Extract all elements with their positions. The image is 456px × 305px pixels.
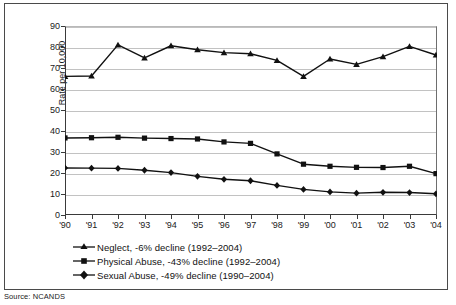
x-tick-label: '00 — [324, 220, 336, 230]
data-point — [407, 164, 412, 169]
y-tick-label: 0 — [55, 211, 60, 220]
x-tick-mark — [145, 215, 146, 219]
figure-border: Rate per 10,000 0102030405060708090 '90'… — [4, 3, 448, 290]
data-point — [327, 56, 334, 62]
x-tick-mark — [65, 215, 66, 219]
x-tick-label: '90 — [59, 220, 71, 230]
x-tick-mark — [436, 215, 437, 219]
series-square — [65, 135, 437, 177]
x-tick-label: '99 — [298, 220, 310, 230]
y-tick-label: 90 — [50, 22, 60, 31]
x-tick-mark — [198, 215, 199, 219]
data-point — [433, 171, 437, 176]
data-point — [274, 151, 279, 156]
data-point — [433, 190, 437, 197]
data-point — [88, 165, 94, 172]
data-point — [327, 189, 333, 196]
x-tick-mark — [410, 215, 411, 219]
x-tick-mark — [304, 215, 305, 219]
y-tick-label: 80 — [50, 43, 60, 52]
data-point — [65, 135, 68, 140]
x-tick-mark — [357, 215, 358, 219]
x-tick-label: '95 — [192, 220, 204, 230]
x-tick-mark — [118, 215, 119, 219]
data-point — [327, 164, 332, 169]
data-point — [221, 139, 226, 144]
series-triangle — [65, 42, 437, 79]
x-tick-label: '93 — [139, 220, 151, 230]
x-tick-label: '02 — [377, 220, 389, 230]
triangle-marker-icon — [71, 240, 97, 254]
data-point — [354, 165, 359, 170]
data-point — [142, 136, 147, 141]
data-point — [247, 177, 253, 184]
x-tick-label: '04 — [430, 220, 442, 230]
data-point — [353, 190, 359, 197]
x-tick-mark — [92, 215, 93, 219]
y-tick-label: 30 — [50, 148, 60, 157]
chart-legend: Neglect, -6% decline (1992–2004) Physica… — [71, 240, 280, 282]
x-tick-mark — [171, 215, 172, 219]
data-point — [168, 169, 174, 176]
x-tick-label: '91 — [86, 220, 98, 230]
data-point — [406, 43, 413, 49]
y-tick-label: 40 — [50, 127, 60, 136]
x-tick-label: '97 — [245, 220, 257, 230]
data-point — [115, 165, 121, 172]
x-tick-label: '96 — [218, 220, 230, 230]
data-point — [89, 135, 94, 140]
x-tick-label: '01 — [351, 220, 363, 230]
legend-label-physical-abuse: Physical Abuse, -43% decline (1992–2004) — [97, 256, 280, 267]
x-tick-mark — [330, 215, 331, 219]
data-point — [65, 165, 68, 172]
data-point — [274, 182, 280, 189]
source-note: Source: NCANDS — [4, 292, 65, 301]
y-tick-label: 70 — [50, 64, 60, 73]
legend-label-sexual-abuse: Sexual Abuse, -49% decline (1990–2004) — [97, 270, 274, 281]
diamond-marker-icon — [71, 268, 97, 282]
data-point — [301, 162, 306, 167]
legend-item-sexual-abuse[interactable]: Sexual Abuse, -49% decline (1990–2004) — [71, 268, 280, 282]
data-point — [195, 136, 200, 141]
y-tick-label: 10 — [50, 190, 60, 199]
x-tick-mark — [383, 215, 384, 219]
data-point — [380, 165, 385, 170]
data-point — [115, 42, 122, 48]
x-tick-label: '98 — [271, 220, 283, 230]
x-tick-label: '03 — [404, 220, 416, 230]
x-tick-mark — [277, 215, 278, 219]
data-point — [406, 189, 412, 196]
data-point — [141, 167, 147, 174]
chart-figure: Rate per 10,000 0102030405060708090 '90'… — [0, 0, 456, 305]
legend-label-neglect: Neglect, -6% decline (1992–2004) — [97, 242, 242, 253]
x-tick-mark — [251, 215, 252, 219]
legend-item-neglect[interactable]: Neglect, -6% decline (1992–2004) — [71, 240, 280, 254]
data-point — [115, 135, 120, 140]
y-tick-label: 50 — [50, 106, 60, 115]
y-tick-label: 60 — [50, 85, 60, 94]
square-marker-icon — [71, 254, 97, 268]
x-tick-label: '94 — [165, 220, 177, 230]
data-point — [380, 189, 386, 196]
legend-item-physical-abuse[interactable]: Physical Abuse, -43% decline (1992–2004) — [71, 254, 280, 268]
y-axis: Rate per 10,000 0102030405060708090 — [5, 4, 65, 237]
x-tick-label: '92 — [112, 220, 124, 230]
y-tick-label: 20 — [50, 169, 60, 178]
data-point — [248, 141, 253, 146]
data-layer — [65, 26, 437, 215]
data-point — [300, 186, 306, 193]
data-point — [194, 173, 200, 180]
x-tick-mark — [224, 215, 225, 219]
data-point — [168, 136, 173, 141]
data-point — [221, 176, 227, 183]
